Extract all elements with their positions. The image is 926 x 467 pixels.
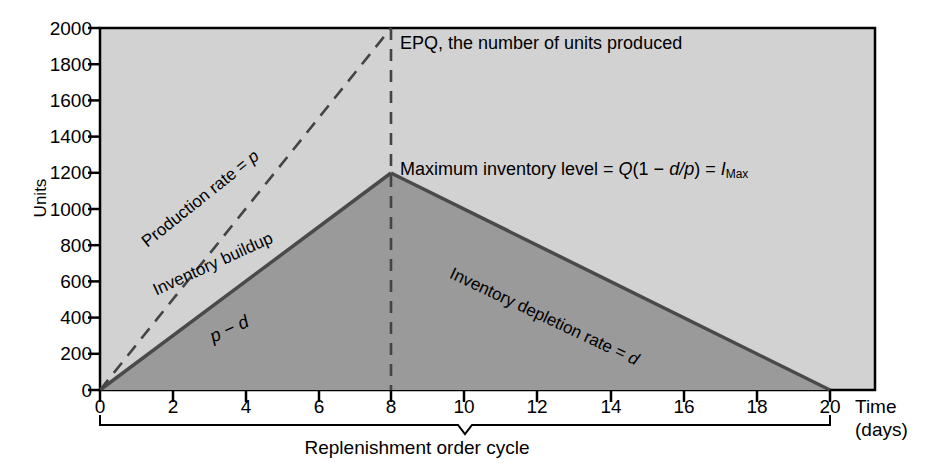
replenishment-cycle-label: Replenishment order cycle xyxy=(0,437,926,458)
x-tick-6: 6 xyxy=(297,396,341,417)
max-inventory-d: d xyxy=(669,159,679,179)
annotation-epq: EPQ, the number of units produced xyxy=(400,33,682,53)
epq-inventory-chart: 0 200 400 600 800 1000 1200 1400 1600 18… xyxy=(0,0,926,467)
x-tick-18: 18 xyxy=(735,396,779,417)
x-tick-14: 14 xyxy=(589,396,633,417)
max-inventory-open: (1 − xyxy=(633,159,670,179)
annotation-epq-text: EPQ, the number of units produced xyxy=(400,33,682,53)
x-tick-8: 8 xyxy=(369,396,413,417)
max-inventory-subscript: Max xyxy=(726,167,749,181)
max-inventory-prefix: Maximum inventory level = xyxy=(400,159,619,179)
x-tick-4: 4 xyxy=(224,396,268,417)
annotation-max-inventory: Maximum inventory level = Q(1 − d/p) = I… xyxy=(400,159,748,181)
x-tick-10: 10 xyxy=(442,396,486,417)
x-tick-12: 12 xyxy=(515,396,559,417)
max-inventory-close: ) = xyxy=(694,159,721,179)
max-inventory-i: I xyxy=(721,159,726,179)
max-inventory-p: p xyxy=(684,159,694,179)
max-inventory-q: Q xyxy=(619,159,633,179)
x-tick-2: 2 xyxy=(151,396,195,417)
x-tick-16: 16 xyxy=(662,396,706,417)
x-tick-20: 20 xyxy=(808,396,852,417)
x-tick-0: 0 xyxy=(78,396,122,417)
replenishment-cycle-text: Replenishment order cycle xyxy=(305,437,530,458)
x-axis-title-time: Time xyxy=(855,396,897,417)
